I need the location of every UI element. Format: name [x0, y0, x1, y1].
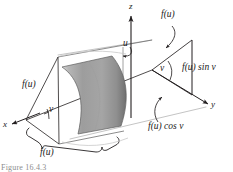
- f-of-u-top-right-label: f(u): [161, 10, 175, 20]
- figure-caption: Figure 16.4.3: [1, 163, 47, 172]
- angle-arc-right: [168, 61, 172, 80]
- f-of-u-brace-label: f(u): [40, 148, 54, 158]
- angle-v-right-label: v: [160, 64, 164, 74]
- figure-surface-of-revolution: z y x u f(u) f(u) sin v f(u) cos v f(u) …: [0, 0, 233, 172]
- leader-arrow-f-of-u-top: [166, 26, 175, 48]
- y-axis-label: y: [211, 100, 215, 109]
- f-of-u-sin-v-label: f(u) sin v: [182, 63, 216, 73]
- f-of-u-left-label: f(u): [22, 80, 36, 90]
- x-axis-line: [12, 113, 40, 124]
- u-parameter-label: u: [123, 39, 128, 49]
- x-axis-label: x: [3, 120, 7, 129]
- angle-v-left-label: v: [49, 105, 53, 115]
- edge-apex-to-bottom-left: [26, 120, 59, 144]
- rim-left-vertical: [58, 57, 59, 144]
- surface-patch: [62, 56, 126, 134]
- edge-top-left-to-top-right: [58, 40, 152, 57]
- f-of-u-cos-v-label: f(u) cos v: [148, 122, 183, 132]
- z-axis-label: z: [129, 2, 133, 11]
